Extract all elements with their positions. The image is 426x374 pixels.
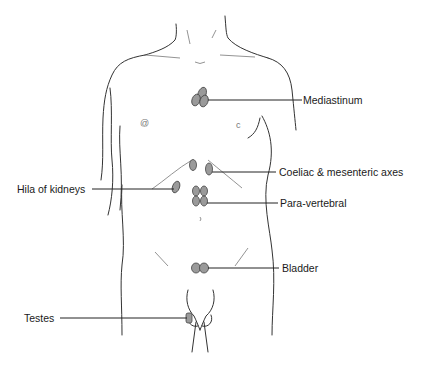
label-mediastinum: Mediastinum [303, 94, 363, 106]
anatomy-diagram: @ c [0, 0, 426, 374]
neck-right-icon [225, 16, 268, 58]
left-arm-outline [101, 55, 145, 180]
right-arm-outline [268, 58, 296, 130]
mediastinum-nodes [190, 86, 210, 108]
label-bladder: Bladder [282, 262, 318, 274]
paravertebral-nodes [193, 186, 208, 206]
svg-text:@: @ [140, 118, 149, 128]
bladder-nodes [192, 263, 209, 273]
label-testes: Testes [24, 312, 54, 324]
label-paravertebral: Para-vertebral [280, 197, 347, 209]
coeliac-nodes [190, 160, 213, 176]
hila-nodes [171, 180, 182, 194]
label-coeliac: Coeliac & mesenteric axes [279, 166, 403, 178]
label-hila: Hila of kidneys [17, 183, 85, 195]
svg-text:c: c [236, 120, 241, 130]
neck-left-icon [145, 24, 176, 55]
